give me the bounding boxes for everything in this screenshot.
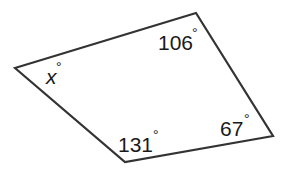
angle-value-top: 106: [158, 31, 193, 54]
angle-value-bottom: 131: [118, 133, 153, 156]
diagram-canvas: 106 ° x ° 131 ° 67 °: [0, 0, 289, 179]
quadrilateral-figure: 106 ° x ° 131 ° 67 °: [0, 0, 289, 179]
angle-label-bottom: 131 °: [118, 127, 159, 156]
degree-symbol-left: °: [56, 59, 62, 75]
angle-label-top: 106 °: [158, 25, 198, 54]
degree-symbol-top: °: [192, 25, 198, 41]
angle-label-right: 67 °: [220, 111, 250, 140]
angle-value-right: 67: [220, 117, 243, 140]
angle-label-left: x °: [45, 59, 62, 88]
degree-symbol-right: °: [244, 111, 250, 127]
degree-symbol-bottom: °: [153, 127, 159, 143]
